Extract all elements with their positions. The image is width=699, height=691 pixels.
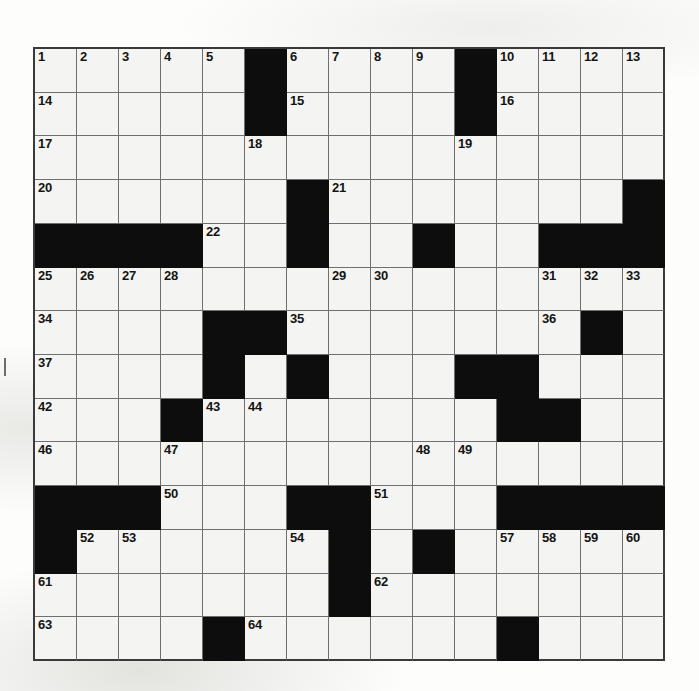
crossword-cell[interactable] [455,399,497,443]
crossword-cell[interactable] [245,574,287,618]
crossword-cell[interactable] [287,136,329,180]
crossword-cell[interactable] [581,136,623,180]
crossword-cell[interactable]: 17 [35,136,77,180]
crossword-cell[interactable] [497,442,539,486]
crossword-cell[interactable]: 2 [77,49,119,93]
crossword-cell[interactable] [455,574,497,618]
crossword-cell[interactable] [329,399,371,443]
crossword-cell[interactable] [371,530,413,574]
crossword-cell[interactable] [371,617,413,661]
crossword-cell[interactable] [287,268,329,312]
crossword-cell[interactable] [203,574,245,618]
crossword-cell[interactable] [581,399,623,443]
crossword-cell[interactable] [119,574,161,618]
crossword-cell[interactable] [161,355,203,399]
crossword-cell[interactable] [203,486,245,530]
crossword-cell[interactable]: 35 [287,311,329,355]
crossword-cell[interactable] [77,574,119,618]
crossword-cell[interactable]: 60 [623,530,665,574]
crossword-cell[interactable]: 20 [35,180,77,224]
crossword-cell[interactable] [539,93,581,137]
crossword-cell[interactable] [539,355,581,399]
crossword-cell[interactable] [581,617,623,661]
crossword-cell[interactable] [161,617,203,661]
crossword-cell[interactable]: 44 [245,399,287,443]
crossword-cell[interactable]: 43 [203,399,245,443]
crossword-cell[interactable] [161,530,203,574]
crossword-cell[interactable] [245,530,287,574]
crossword-cell[interactable]: 19 [455,136,497,180]
crossword-cell[interactable]: 34 [35,311,77,355]
crossword-cell[interactable] [329,93,371,137]
crossword-cell[interactable]: 1 [35,49,77,93]
crossword-cell[interactable] [371,224,413,268]
crossword-cell[interactable] [203,530,245,574]
crossword-cell[interactable] [77,617,119,661]
crossword-cell[interactable] [455,180,497,224]
crossword-cell[interactable] [245,442,287,486]
crossword-cell[interactable] [77,399,119,443]
crossword-cell[interactable] [623,617,665,661]
crossword-cell[interactable]: 63 [35,617,77,661]
crossword-cell[interactable] [581,574,623,618]
crossword-cell[interactable] [161,93,203,137]
crossword-cell[interactable]: 7 [329,49,371,93]
crossword-cell[interactable] [413,268,455,312]
crossword-cell[interactable] [77,180,119,224]
crossword-cell[interactable] [77,311,119,355]
crossword-cell[interactable]: 29 [329,268,371,312]
crossword-cell[interactable]: 18 [245,136,287,180]
crossword-cell[interactable] [581,180,623,224]
crossword-cell[interactable] [581,355,623,399]
crossword-cell[interactable] [161,311,203,355]
crossword-cell[interactable]: 62 [371,574,413,618]
crossword-cell[interactable] [413,486,455,530]
crossword-cell[interactable] [329,311,371,355]
crossword-cell[interactable]: 57 [497,530,539,574]
crossword-cell[interactable]: 12 [581,49,623,93]
crossword-cell[interactable] [539,617,581,661]
crossword-cell[interactable] [245,180,287,224]
crossword-cell[interactable] [119,399,161,443]
crossword-cell[interactable] [455,268,497,312]
crossword-cell[interactable]: 48 [413,442,455,486]
crossword-cell[interactable]: 4 [161,49,203,93]
crossword-cell[interactable] [287,617,329,661]
crossword-cell[interactable]: 8 [371,49,413,93]
crossword-cell[interactable]: 25 [35,268,77,312]
crossword-cell[interactable] [539,180,581,224]
crossword-cell[interactable] [119,355,161,399]
crossword-cell[interactable] [161,574,203,618]
crossword-cell[interactable] [455,224,497,268]
crossword-cell[interactable] [245,486,287,530]
crossword-cell[interactable] [287,574,329,618]
crossword-cell[interactable] [413,399,455,443]
crossword-cell[interactable]: 13 [623,49,665,93]
crossword-cell[interactable] [329,355,371,399]
crossword-cell[interactable]: 14 [35,93,77,137]
crossword-cell[interactable] [413,311,455,355]
crossword-cell[interactable] [287,442,329,486]
crossword-cell[interactable] [161,136,203,180]
crossword-cell[interactable]: 33 [623,268,665,312]
crossword-cell[interactable] [203,268,245,312]
crossword-cell[interactable]: 49 [455,442,497,486]
crossword-cell[interactable]: 54 [287,530,329,574]
crossword-cell[interactable] [77,355,119,399]
crossword-cell[interactable]: 51 [371,486,413,530]
crossword-cell[interactable]: 10 [497,49,539,93]
crossword-cell[interactable] [329,442,371,486]
crossword-cell[interactable] [497,268,539,312]
crossword-cell[interactable]: 61 [35,574,77,618]
crossword-cell[interactable] [455,617,497,661]
crossword-cell[interactable]: 11 [539,49,581,93]
crossword-cell[interactable] [413,136,455,180]
crossword-cell[interactable]: 26 [77,268,119,312]
crossword-cell[interactable] [77,93,119,137]
crossword-cell[interactable] [287,399,329,443]
crossword-cell[interactable]: 52 [77,530,119,574]
crossword-cell[interactable] [119,136,161,180]
crossword-cell[interactable]: 28 [161,268,203,312]
crossword-cell[interactable] [413,93,455,137]
crossword-cell[interactable]: 58 [539,530,581,574]
